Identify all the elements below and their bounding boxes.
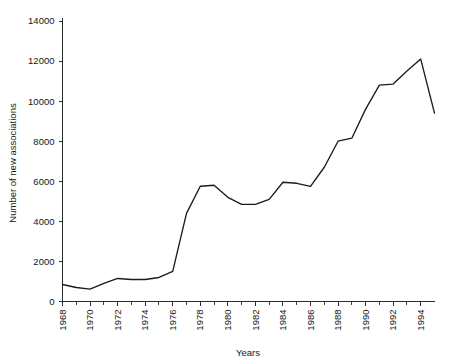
x-tick-label: 1986 bbox=[305, 310, 316, 331]
y-axis-title: Number of new associations bbox=[7, 103, 18, 223]
x-tick-label: 1972 bbox=[112, 310, 123, 331]
x-tick-label: 1968 bbox=[57, 310, 68, 331]
y-tick-label: 10000 bbox=[28, 96, 54, 107]
axes bbox=[63, 18, 435, 302]
y-tick-label: 2000 bbox=[33, 256, 54, 267]
x-tick-label: 1992 bbox=[387, 310, 398, 331]
x-tick-label: 1978 bbox=[194, 310, 205, 331]
y-tick-label: 8000 bbox=[33, 136, 54, 147]
x-tick-label: 1982 bbox=[250, 310, 261, 331]
line-chart: 02000400060008000100001200014000 1968197… bbox=[0, 0, 450, 363]
x-axis-ticks: 1968197019721974197619781980198219841986… bbox=[57, 302, 426, 331]
x-tick-label: 1970 bbox=[84, 310, 95, 331]
x-tick-label: 1980 bbox=[222, 310, 233, 331]
data-series bbox=[63, 59, 435, 289]
x-tick-label: 1984 bbox=[277, 310, 288, 331]
x-tick-label: 1974 bbox=[139, 310, 150, 331]
series-line bbox=[63, 59, 435, 289]
x-tick-label: 1976 bbox=[167, 310, 178, 331]
chart-figure: 02000400060008000100001200014000 1968197… bbox=[0, 0, 450, 363]
x-axis-title: Years bbox=[236, 347, 260, 358]
y-tick-label: 14000 bbox=[28, 15, 54, 26]
y-tick-label: 4000 bbox=[33, 216, 54, 227]
y-tick-label: 6000 bbox=[33, 176, 54, 187]
y-tick-label: 0 bbox=[49, 296, 54, 307]
y-tick-label: 12000 bbox=[28, 55, 54, 66]
x-tick-label: 1988 bbox=[332, 310, 343, 331]
x-tick-label: 1994 bbox=[415, 310, 426, 331]
y-axis-ticks: 02000400060008000100001200014000 bbox=[28, 15, 62, 307]
x-tick-label: 1990 bbox=[360, 310, 371, 331]
